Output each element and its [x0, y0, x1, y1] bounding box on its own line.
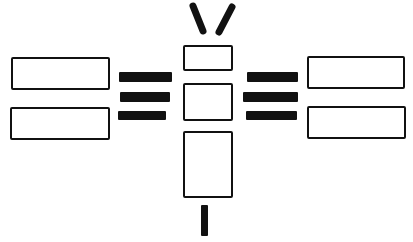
- center-top-box: [183, 45, 233, 71]
- bottom-stem: [201, 205, 208, 236]
- left-connector-bar: [119, 72, 172, 82]
- right-top-panel: [307, 56, 405, 89]
- right-connector-bar: [243, 92, 298, 102]
- right-connector-bar: [247, 72, 298, 82]
- center-middle-box: [183, 83, 233, 121]
- right-connector-bar: [246, 111, 297, 120]
- right-bottom-panel: [307, 106, 406, 139]
- left-bottom-panel: [10, 107, 110, 140]
- left-top-panel: [11, 57, 110, 90]
- center-bottom-box: [183, 131, 233, 198]
- left-connector-bar: [118, 111, 166, 120]
- antenna-left: [193, 6, 203, 31]
- antenna-right: [219, 7, 232, 32]
- left-connector-bar: [120, 92, 170, 102]
